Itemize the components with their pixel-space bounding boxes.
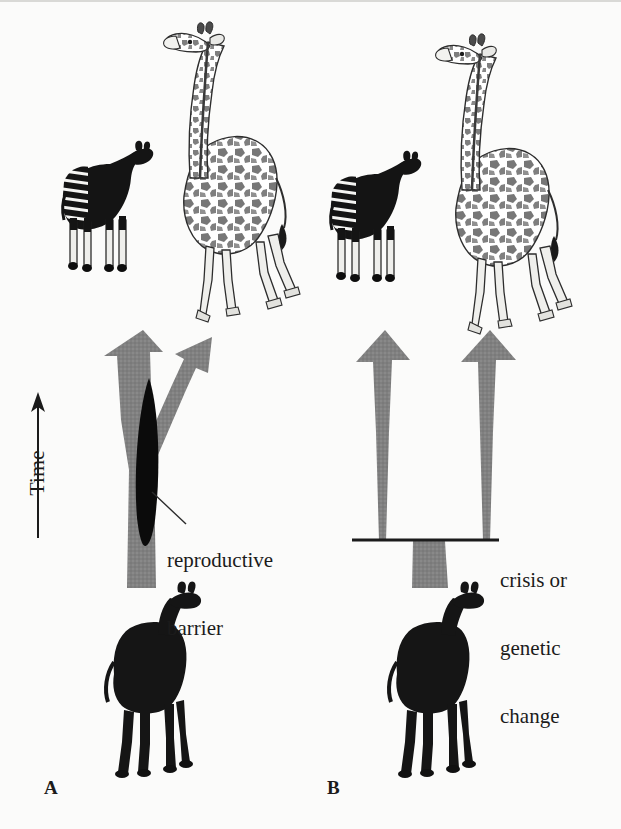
time-axis-label: Time <box>24 428 50 518</box>
crisis-or-genetic-change-label: crisis or genetic change <box>500 524 567 751</box>
time-axis: Time <box>8 390 68 540</box>
panel-label-b: B <box>327 778 340 799</box>
animal-ancestor-panel-b <box>389 581 484 778</box>
animal-okapi-panel-a <box>62 141 153 272</box>
reproductive-barrier-line-1: reproductive <box>167 549 273 572</box>
reproductive-barrier-line-2: barrier <box>167 617 273 640</box>
animal-giraffe-panel-b <box>436 34 572 334</box>
animal-okapi-panel-b <box>330 151 421 282</box>
crisis-label-line-3: change <box>500 705 567 728</box>
panel-b-arrow-right <box>461 330 516 541</box>
animal-giraffe-panel-a <box>164 22 300 322</box>
panel-b-ancestor-trunk <box>412 541 448 588</box>
crisis-label-line-1: crisis or <box>500 569 567 592</box>
panel-b-group <box>352 330 516 588</box>
figure-canvas: Time reproductive barrier crisis or gene… <box>0 0 621 829</box>
panel-b-arrow-left <box>356 330 410 541</box>
panel-label-a: A <box>44 778 58 799</box>
crisis-label-line-2: genetic <box>500 637 567 660</box>
reproductive-barrier-label: reproductive barrier <box>167 504 273 663</box>
